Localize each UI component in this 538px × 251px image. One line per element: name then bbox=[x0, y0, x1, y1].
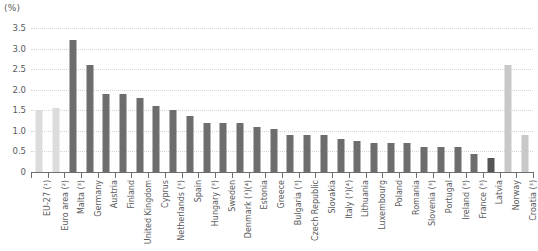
x-axis-label-slot: Latvia bbox=[483, 180, 500, 250]
y-axis-tick-label: 1.5 bbox=[12, 105, 26, 115]
x-axis-label-slot: Sweden bbox=[215, 180, 232, 250]
x-axis-tick bbox=[332, 172, 333, 178]
x-axis-label-slot: Greece bbox=[265, 180, 282, 250]
bar-slot bbox=[466, 28, 483, 172]
bar[interactable] bbox=[53, 108, 60, 172]
bar-slot bbox=[249, 28, 266, 172]
x-axis-tick bbox=[265, 172, 266, 178]
x-axis-tick bbox=[433, 172, 434, 178]
x-axis-label-slot: Denmark (³)(⁴) bbox=[232, 180, 249, 250]
bar[interactable] bbox=[504, 65, 511, 172]
bar[interactable] bbox=[237, 123, 244, 172]
bar-slot bbox=[500, 28, 517, 172]
bar[interactable] bbox=[371, 143, 378, 172]
plot-area bbox=[31, 28, 533, 172]
bar[interactable] bbox=[488, 158, 495, 172]
x-axis-tick bbox=[81, 172, 82, 178]
y-axis: 00.51.01.52.02.53.03.5 bbox=[0, 28, 28, 172]
bar-slot bbox=[98, 28, 115, 172]
x-axis-label-slot: Austria bbox=[98, 180, 115, 250]
bar[interactable] bbox=[320, 135, 327, 172]
x-axis-tick bbox=[165, 172, 166, 178]
x-axis-tick bbox=[131, 172, 132, 178]
x-axis-label-slot: Lithuania bbox=[349, 180, 366, 250]
bar-slot bbox=[416, 28, 433, 172]
bar-slot bbox=[31, 28, 48, 172]
x-axis-label-slot: Slovenia (³) bbox=[416, 180, 433, 250]
x-axis-label-slot: Croatia (³) bbox=[516, 180, 533, 250]
bar[interactable] bbox=[421, 147, 428, 172]
bar-slot bbox=[198, 28, 215, 172]
bar-slot bbox=[148, 28, 165, 172]
x-axis-label-slot: Bulgaria (³) bbox=[282, 180, 299, 250]
x-axis-tick bbox=[399, 172, 400, 178]
x-axis: EU-27 (¹)Euro area (²)Malta (³)GermanyAu… bbox=[31, 172, 533, 251]
y-axis-unit-label: (%) bbox=[4, 3, 20, 13]
x-axis-label-slot: Poland bbox=[382, 180, 399, 250]
x-axis-label-slot: Norway bbox=[500, 180, 517, 250]
bar[interactable] bbox=[304, 135, 311, 172]
bar[interactable] bbox=[437, 147, 444, 172]
bar[interactable] bbox=[220, 123, 227, 172]
x-axis-label-slot: Estonia bbox=[249, 180, 266, 250]
bar-slot bbox=[131, 28, 148, 172]
bar-slot bbox=[282, 28, 299, 172]
x-axis-label-slot: Netherlands (³) bbox=[165, 180, 182, 250]
x-axis-tick bbox=[315, 172, 316, 178]
x-axis-tick bbox=[299, 172, 300, 178]
bar[interactable] bbox=[103, 94, 110, 172]
bar[interactable] bbox=[120, 94, 127, 172]
bar[interactable] bbox=[404, 143, 411, 172]
x-axis-tick bbox=[533, 172, 534, 178]
x-axis-tick bbox=[148, 172, 149, 178]
bar-slot bbox=[64, 28, 81, 172]
bar-slot bbox=[399, 28, 416, 172]
bar[interactable] bbox=[203, 123, 210, 172]
bar[interactable] bbox=[454, 147, 461, 172]
bar-slot bbox=[433, 28, 450, 172]
bar-slot bbox=[182, 28, 199, 172]
x-axis-tick bbox=[48, 172, 49, 178]
bar[interactable] bbox=[471, 154, 478, 173]
bar[interactable] bbox=[270, 129, 277, 172]
bar-slot bbox=[265, 28, 282, 172]
bar[interactable] bbox=[253, 127, 260, 172]
bar[interactable] bbox=[186, 116, 193, 172]
bar-slot bbox=[315, 28, 332, 172]
x-axis-tick bbox=[449, 172, 450, 178]
x-axis-label-slot: Slovakia bbox=[315, 180, 332, 250]
x-axis-tick bbox=[282, 172, 283, 178]
x-axis-tick bbox=[31, 172, 32, 178]
bar[interactable] bbox=[69, 40, 76, 172]
x-axis-label-slot: Czech Republic bbox=[299, 180, 316, 250]
y-axis-tick-label: 2.0 bbox=[12, 85, 26, 95]
bar[interactable] bbox=[387, 143, 394, 172]
y-axis-tick-label: 0 bbox=[21, 167, 26, 177]
bar-slot bbox=[382, 28, 399, 172]
bar[interactable] bbox=[36, 110, 43, 172]
bar[interactable] bbox=[354, 141, 361, 172]
bar-slot bbox=[165, 28, 182, 172]
x-axis-label-slot: Cyprus bbox=[148, 180, 165, 250]
bar[interactable] bbox=[287, 135, 294, 172]
bar-slot bbox=[81, 28, 98, 172]
bar[interactable] bbox=[521, 135, 528, 172]
bar[interactable] bbox=[337, 139, 344, 172]
bar-slot bbox=[349, 28, 366, 172]
x-axis-label-slot: Malta (³) bbox=[64, 180, 81, 250]
bar-slot bbox=[516, 28, 533, 172]
bar[interactable] bbox=[170, 110, 177, 172]
x-axis-label-slot: Euro area (²) bbox=[48, 180, 65, 250]
bar[interactable] bbox=[153, 106, 160, 172]
bar[interactable] bbox=[136, 98, 143, 172]
x-axis-label-slot: France (³) bbox=[466, 180, 483, 250]
x-axis-label-slot: Finland bbox=[115, 180, 132, 250]
x-axis-tick bbox=[232, 172, 233, 178]
bar-slot bbox=[366, 28, 383, 172]
x-axis-tick bbox=[98, 172, 99, 178]
y-axis-tick-label: 3.0 bbox=[12, 44, 26, 54]
x-axis-tick bbox=[249, 172, 250, 178]
x-axis-label-slot: Italy (³)(⁴) bbox=[332, 180, 349, 250]
x-axis-tick bbox=[466, 172, 467, 178]
bar[interactable] bbox=[86, 65, 93, 172]
